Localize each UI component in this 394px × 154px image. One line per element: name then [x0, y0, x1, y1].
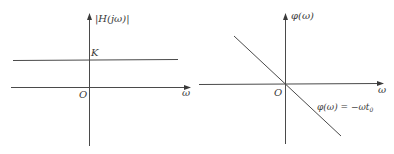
right-origin-label: O	[274, 87, 282, 98]
right-x-axis-label: ω	[378, 84, 386, 95]
left-y-axis-arrow-icon	[87, 13, 92, 20]
linear-phase-line	[234, 36, 341, 136]
phase-equation-label: φ(ω) = −ωt0	[317, 102, 373, 113]
left-origin-label: O	[79, 89, 87, 100]
phase-equation-text: φ(ω) = −ωt	[317, 102, 370, 112]
phase-equation-subscript: 0	[369, 106, 373, 113]
left-y-axis-label: |H(jω)|	[95, 13, 130, 25]
constant-magnitude-line	[13, 60, 178, 61]
magnitude-plot: |H(jω)| K O ω	[11, 13, 191, 146]
right-y-axis-label: φ(ω)	[291, 10, 314, 21]
k-level-label: K	[90, 47, 99, 58]
right-x-axis	[199, 84, 379, 85]
phase-plot: φ(ω) O ω φ(ω) = −ωt0	[199, 10, 386, 144]
frequency-response-diagram: |H(jω)| K O ω φ(ω) O ω φ(ω) = −ωt0	[0, 0, 394, 154]
right-y-axis-arrow-icon	[283, 13, 288, 20]
left-x-axis-label: ω	[182, 87, 190, 98]
